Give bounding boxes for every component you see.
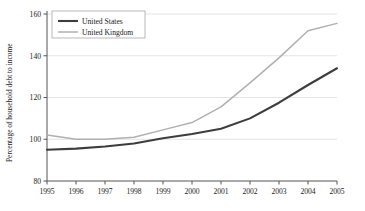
x-tick-label: 2005 (329, 187, 344, 196)
y-axis-title: Percentage of household debt to income (5, 43, 14, 162)
x-tick-label: 2002 (242, 187, 257, 196)
legend-label-united-kingdom: United Kingdom (82, 28, 133, 37)
y-tick-label: 80 (33, 177, 41, 186)
x-tick-label: 1999 (155, 187, 170, 196)
y-tick-label: 140 (30, 52, 42, 61)
legend-label-united-states: United States (82, 17, 123, 26)
y-tick-label: 100 (30, 135, 42, 144)
x-tick-label: 1998 (126, 187, 141, 196)
x-tick-label: 1997 (97, 187, 112, 196)
chart-legend[interactable]: United StatesUnited Kingdom (52, 11, 145, 38)
x-tick-label: 1995 (39, 187, 54, 196)
x-tick-label: 2004 (300, 187, 315, 196)
line-chart: 80100120140160 1995199619971998199920002… (0, 0, 365, 211)
y-tick-label: 120 (30, 93, 42, 102)
x-tick-label: 1996 (68, 187, 83, 196)
x-tick-label: 2000 (184, 187, 199, 196)
chart-container: 80100120140160 1995199619971998199920002… (0, 0, 365, 211)
y-tick-label: 160 (30, 10, 42, 19)
x-tick-label: 2003 (271, 187, 286, 196)
x-tick-label: 2001 (213, 187, 228, 196)
